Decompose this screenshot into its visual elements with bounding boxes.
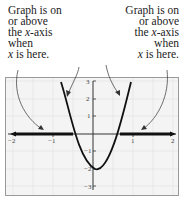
y-tick-1: 1 [87, 112, 91, 120]
y-tick-neg3: −3 [84, 183, 92, 191]
y-tick-neg1: −1 [84, 147, 92, 155]
x-tick-1: 1 [131, 137, 135, 145]
x-tick-neg1: −1 [48, 137, 56, 145]
x-tick-neg2: −2 [8, 137, 16, 145]
y-tick-3: 3 [86, 78, 90, 86]
graph: 3 2 1 −1 −2 −3 −2 −1 1 2 [0, 0, 184, 201]
y-tick-2: 2 [86, 95, 90, 103]
x-tick-2: 2 [171, 137, 175, 145]
graph-frame [6, 78, 179, 196]
